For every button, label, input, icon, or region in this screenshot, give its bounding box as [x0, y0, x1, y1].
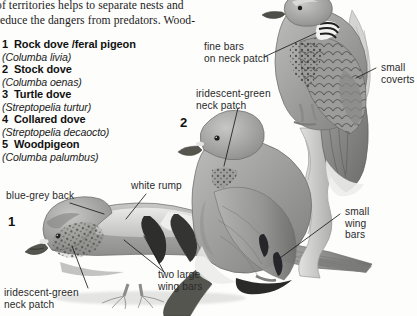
bird-3-turtle-dove	[262, 0, 370, 196]
figure-marker-2: 2	[180, 115, 187, 130]
species-list-item: 1 Rock dove /feral pigeon	[2, 38, 172, 51]
label-two-large-wing-bars: two large wing bars	[158, 269, 203, 292]
label-fine-bars-on-neck-patch: fine bars on neck patch	[204, 41, 269, 64]
species-list-item: 4 Collared dove	[2, 113, 172, 126]
species-latin-name: (Columba oenas)	[2, 76, 172, 88]
species-common-name: Stock dove	[14, 63, 72, 75]
species-common-name: Collared dove	[14, 113, 85, 125]
species-common-name: Rock dove /feral pigeon	[14, 38, 136, 50]
species-number: 1	[2, 38, 14, 50]
species-latin-name: (Streptopelia turtur)	[2, 101, 172, 113]
figure-marker-1: 1	[8, 214, 15, 229]
species-latin-name: (Streptopelia decaocto)	[2, 126, 172, 138]
species-latin-name: (Columba livia)	[2, 51, 172, 63]
species-common-name: Woodpigeon	[14, 138, 79, 150]
label-small-coverts: small coverts	[381, 62, 415, 85]
species-list: 1 Rock dove /feral pigeon (Columba livia…	[2, 38, 172, 163]
label-white-rump: white rump	[131, 180, 182, 192]
species-number: 3	[2, 88, 14, 100]
body-paragraph: of territories helps to separate nests a…	[0, 0, 254, 28]
species-list-item: 3 Turtle dove	[2, 88, 172, 101]
label-small-wing-bars: small wing bars	[345, 206, 369, 241]
field-guide-page: of territories helps to separate nests a…	[0, 0, 417, 316]
species-number: 4	[2, 113, 14, 125]
species-list-item: 5 Woodpigeon	[2, 138, 172, 151]
label-iridescent-green-neck-patch-bird1: iridescent-green neck patch	[4, 287, 79, 310]
species-number: 2	[2, 63, 14, 75]
species-number: 5	[2, 138, 14, 150]
species-list-item: 2 Stock dove	[2, 63, 172, 76]
label-blue-grey-back: blue-grey back	[6, 190, 74, 202]
species-latin-name: (Columba palumbus)	[2, 151, 172, 163]
label-iridescent-green-neck-patch-bird2: iridescent-green neck patch	[196, 88, 271, 111]
species-common-name: Turtle dove	[14, 88, 71, 100]
